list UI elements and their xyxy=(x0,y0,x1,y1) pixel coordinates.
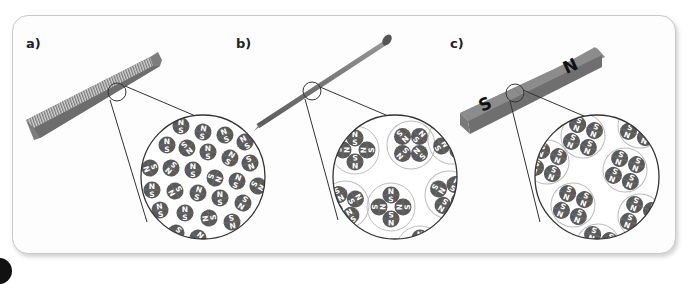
domains-random xyxy=(139,115,270,250)
nail-illustration xyxy=(254,33,394,131)
comb-illustration xyxy=(26,52,162,140)
domains-grouped xyxy=(312,107,485,269)
domains-aligned xyxy=(507,98,668,269)
